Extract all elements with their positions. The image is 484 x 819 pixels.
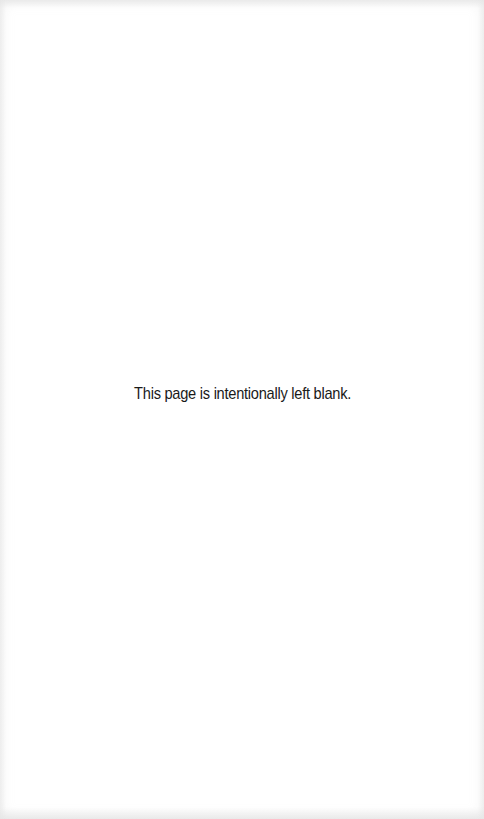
scan-edge-left [0,0,6,819]
scan-edge-top [0,0,484,8]
scan-edge-right [478,0,484,819]
document-page: This page is intentionally left blank. [0,0,484,819]
blank-page-notice: This page is intentionally left blank. [34,383,450,405]
scan-edge-bottom [0,807,484,819]
